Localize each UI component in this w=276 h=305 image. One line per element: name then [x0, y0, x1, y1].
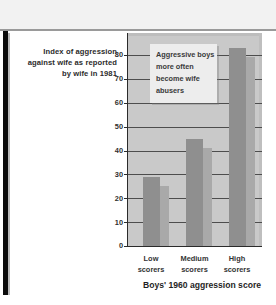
y-tick-label-40: 40: [105, 146, 123, 155]
figure-root: Index of aggression against wife as repo…: [0, 0, 276, 305]
y-tick-mark-40: [124, 151, 128, 152]
y-tick-label-10: 10: [105, 218, 123, 227]
annotation-callout: Aggressive boys more often become wife a…: [150, 44, 217, 103]
bar-medium-scorers: [186, 139, 203, 246]
y-tick-label-50: 50: [105, 122, 123, 131]
page-top-band: [0, 0, 276, 31]
y-tick-label-60: 60: [105, 98, 123, 107]
y-axis-label-line-2: against wife as reported: [12, 57, 117, 68]
y-axis-line: [127, 33, 128, 247]
y-tick-mark-30: [124, 174, 128, 175]
y-tick-mark-60: [124, 103, 128, 104]
y-tick-mark-70: [124, 79, 128, 80]
y-tick-label-0: 0: [105, 241, 123, 250]
y-tick-mark-80: [124, 55, 128, 56]
y-tick-mark-0: [124, 246, 128, 247]
bar-shadow-1: [203, 148, 212, 246]
x-category-label-2-line-1: scorers: [211, 264, 263, 275]
y-tick-label-80: 80: [105, 50, 123, 59]
y-axis-label-line-1: Index of aggression: [12, 46, 117, 57]
annotation-line-2: more often: [156, 61, 216, 73]
x-axis-line: [127, 246, 262, 247]
y-tick-label-20: 20: [105, 194, 123, 203]
bar-shadow-0: [160, 186, 169, 246]
annotation-line-1: Aggressive boys: [156, 49, 216, 61]
x-category-label-2: Highscorers: [211, 253, 263, 275]
plot-top-shade: [128, 33, 262, 36]
bar-shadow-2: [246, 57, 255, 246]
annotation-line-3: become wife: [156, 73, 216, 85]
plot-right-shade: [259, 33, 262, 246]
y-axis-label-line-3: by wife in 1981: [12, 68, 117, 79]
bar-high-scorers: [229, 48, 246, 246]
y-tick-mark-10: [124, 222, 128, 223]
y-tick-label-30: 30: [105, 170, 123, 179]
y-tick-mark-50: [124, 127, 128, 128]
y-tick-mark-20: [124, 198, 128, 199]
annotation-line-4: abusers: [156, 85, 216, 97]
bar-low-scorers: [143, 177, 160, 246]
x-category-label-2-line-0: High: [211, 253, 263, 264]
annotation-callout-text: Aggressive boys more often become wife a…: [156, 49, 216, 97]
page-bottom-strip: [0, 296, 276, 305]
x-axis-title: Boys' 1960 aggression score: [128, 280, 276, 290]
y-axis-label: Index of aggression against wife as repo…: [12, 46, 117, 79]
y-tick-label-70: 70: [105, 74, 123, 83]
